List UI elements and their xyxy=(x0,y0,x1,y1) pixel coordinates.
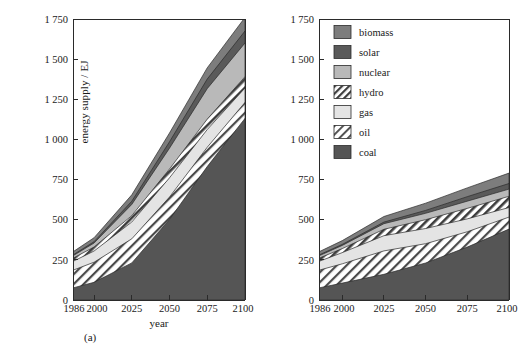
y-tick-label: 250 xyxy=(52,255,68,266)
x-axis-title: year xyxy=(73,317,245,329)
legend-label-solar: solar xyxy=(359,47,380,58)
legend-swatch-nuclear xyxy=(334,66,351,79)
legend-swatch-gas xyxy=(334,106,351,119)
panel-a: energy supply / EJ xyxy=(0,0,264,348)
panel-b-areas xyxy=(319,173,509,300)
x-tick-label: 2025 xyxy=(121,303,142,314)
legend-item-biomass[interactable]: biomass xyxy=(334,26,393,39)
x-tick-label: 2050 xyxy=(159,303,180,314)
legend-label-gas: gas xyxy=(359,107,373,118)
y-tick-label: 1 250 xyxy=(44,94,68,105)
figure-energy-supply-scenarios: energy supply / EJ xyxy=(0,0,529,348)
x-tick-label: 2100 xyxy=(233,303,254,314)
legend-label-hydro: hydro xyxy=(359,87,384,98)
y-tick-label: 1 000 xyxy=(44,134,68,145)
y-tick-label: 500 xyxy=(52,214,68,225)
panel-b: 0 250 500 750 1 000 1 250 1 500 1 750 19… xyxy=(264,0,529,348)
legend-swatch-coal xyxy=(334,146,351,159)
x-tick-label: 2000 xyxy=(334,303,355,314)
y-tick-label: 250 xyxy=(298,255,314,266)
legend-item-solar[interactable]: solar xyxy=(334,46,380,59)
legend-swatch-hydro xyxy=(334,86,351,99)
legend-label-nuclear: nuclear xyxy=(359,67,390,78)
legend-item-nuclear[interactable]: nuclear xyxy=(334,66,390,79)
legend-item-hydro[interactable]: hydro xyxy=(334,86,384,99)
x-tick-label: 1986 xyxy=(310,303,331,314)
x-tick-label: 2075 xyxy=(197,303,218,314)
x-tick-label: 1986 xyxy=(64,303,85,314)
panel-a-plot: 0 250 500 750 1 000 1 250 1 500 1 750 19… xyxy=(0,0,264,348)
x-tick-label: 2100 xyxy=(497,303,518,314)
legend-label-biomass: biomass xyxy=(359,27,393,38)
y-tick-label: 1 750 xyxy=(44,14,68,25)
panel-b-plot: 0 250 500 750 1 000 1 250 1 500 1 750 19… xyxy=(264,0,529,348)
legend-label-oil: oil xyxy=(359,127,370,138)
legend-swatch-oil xyxy=(334,126,351,139)
y-tick-label: 750 xyxy=(52,174,68,185)
legend-item-oil[interactable]: oil xyxy=(334,126,370,139)
x-tick-label: 2050 xyxy=(415,303,436,314)
x-tick-label: 2075 xyxy=(457,303,478,314)
panel-a-areas xyxy=(73,17,245,300)
y-tick-label: 1 000 xyxy=(290,134,314,145)
legend-swatch-biomass xyxy=(334,26,351,39)
panel-a-tag: (a) xyxy=(84,331,96,343)
y-tick-label: 1 500 xyxy=(44,54,68,65)
panel-a-x-tick-labels: 1986 2000 2025 2050 2075 2100 xyxy=(64,303,254,314)
x-tick-label: 2025 xyxy=(373,303,394,314)
legend-item-gas[interactable]: gas xyxy=(334,106,373,119)
y-tick-label: 1 250 xyxy=(290,94,314,105)
legend-item-coal[interactable]: coal xyxy=(334,146,377,159)
x-tick-label: 2000 xyxy=(87,303,108,314)
panel-a-y-tick-labels: 0 250 500 750 1 000 1 250 1 500 1 750 xyxy=(44,14,68,306)
y-tick-label: 500 xyxy=(298,214,314,225)
panel-b-y-tick-labels: 0 250 500 750 1 000 1 250 1 500 1 750 xyxy=(290,14,314,306)
legend: biomass solar nuclear hydro gas xyxy=(334,26,393,159)
legend-swatch-solar xyxy=(334,46,351,59)
y-tick-label: 750 xyxy=(298,174,314,185)
panel-b-x-tick-labels: 1986 2000 2025 2050 2075 2100 xyxy=(310,303,518,314)
y-tick-label: 1 500 xyxy=(290,54,314,65)
legend-label-coal: coal xyxy=(359,147,377,158)
y-tick-label: 1 750 xyxy=(290,14,314,25)
